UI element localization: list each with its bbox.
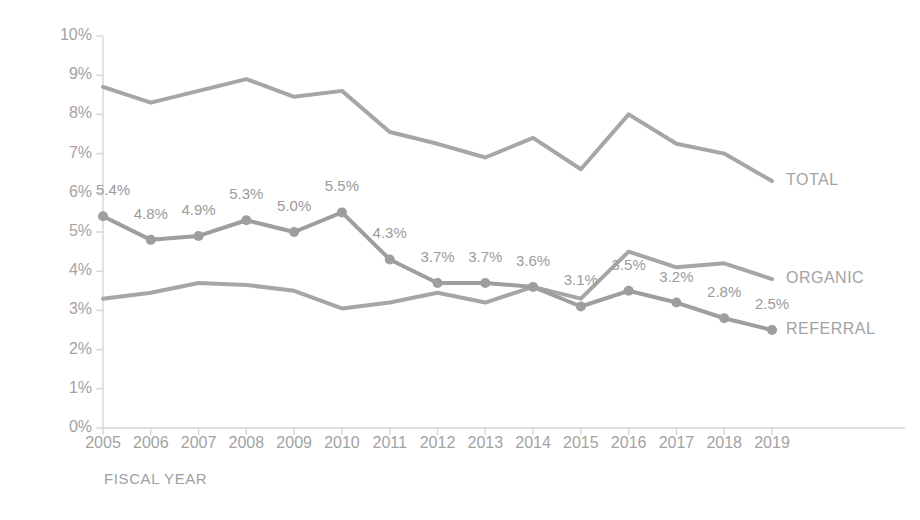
data-point-label: 3.7% [468, 248, 502, 265]
data-point-label: 3.2% [659, 268, 693, 285]
data-point-label: 4.8% [134, 205, 168, 222]
data-point-label: 3.1% [564, 271, 598, 288]
data-point-label: 5.3% [229, 185, 263, 202]
data-point-label: 5.4% [96, 181, 130, 198]
data-point-marker [194, 231, 204, 241]
data-point-label: 3.7% [420, 248, 454, 265]
data-point-marker [719, 313, 729, 323]
x-axis-title: FISCAL YEAR [104, 470, 207, 487]
data-point-marker [385, 254, 395, 264]
plot-area [0, 0, 920, 520]
data-point-marker [480, 278, 490, 288]
data-point-label: 5.0% [277, 197, 311, 214]
series-label-organic: ORGANIC [786, 269, 864, 287]
data-point-marker [624, 286, 634, 296]
data-point-label: 3.6% [516, 252, 550, 269]
data-point-marker [289, 227, 299, 237]
data-point-marker [337, 207, 347, 217]
data-point-marker [433, 278, 443, 288]
data-point-marker [671, 298, 681, 308]
data-point-marker [241, 215, 251, 225]
data-point-marker [98, 211, 108, 221]
series-label-referral: REFERRAL [786, 320, 875, 338]
conversion-rate-line-chart: CONVERSION RATE 0%1%2%3%4%5%6%7%8%9%10% … [0, 0, 920, 520]
data-point-marker [767, 325, 777, 335]
data-point-label: 3.5% [612, 256, 646, 273]
data-point-marker [576, 301, 586, 311]
series-line-total [103, 79, 772, 181]
data-point-label: 4.9% [181, 201, 215, 218]
series-label-total: TOTAL [786, 171, 839, 189]
data-point-label: 5.5% [325, 177, 359, 194]
data-point-marker [146, 235, 156, 245]
data-point-label: 2.8% [707, 283, 741, 300]
data-point-marker [528, 282, 538, 292]
data-point-label: 4.3% [373, 224, 407, 241]
data-point-label: 2.5% [755, 295, 789, 312]
